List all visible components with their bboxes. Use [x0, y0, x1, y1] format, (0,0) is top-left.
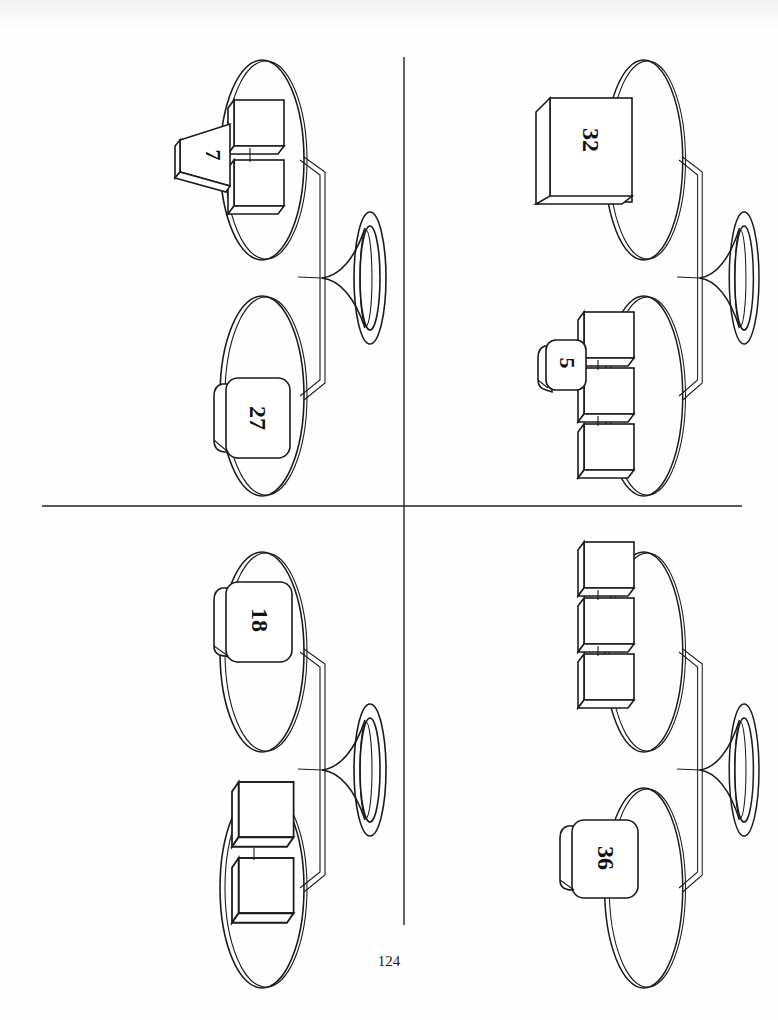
scale-bottom-right-upper-pan	[578, 542, 634, 708]
weight-label-5: 5	[555, 358, 580, 369]
scale-bottom-left-lower-pan	[232, 782, 294, 923]
scale-top-left-lower-pan: 27	[214, 378, 290, 458]
scale-bottom-left-upper-pan: 18	[214, 582, 292, 662]
page-number: 124	[0, 953, 778, 970]
weight-label-7: 7	[201, 150, 226, 161]
scale-bottom-right-lower-pan: 36	[560, 820, 638, 898]
weight-label-18: 18	[247, 608, 273, 632]
scale-top-right-lower-pan: 5	[538, 312, 634, 478]
weight-label-32: 32	[578, 128, 604, 152]
worksheet-page: 7 27 32 5	[0, 0, 778, 1020]
scale-top-left-upper-pan: 7	[175, 100, 284, 214]
weight-label-27: 27	[245, 406, 271, 430]
weight-label-36: 36	[593, 846, 619, 870]
balance-scales-illustration: 7 27 32 5	[0, 0, 778, 1020]
scale-top-right-upper-pan: 32	[536, 98, 632, 204]
